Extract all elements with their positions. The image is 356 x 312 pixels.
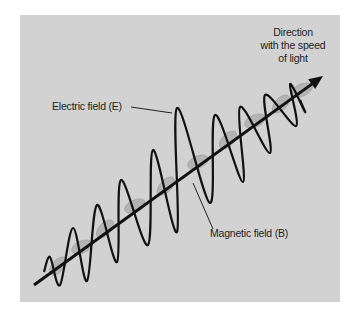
direction-line-2: with the speed bbox=[253, 39, 333, 52]
electric-field-label: Electric field (E) bbox=[52, 100, 122, 113]
electric-leader-line bbox=[131, 107, 172, 113]
direction-label: Direction with the speed of light bbox=[253, 26, 333, 65]
direction-line-1: Direction bbox=[253, 26, 333, 39]
direction-line-3: of light bbox=[253, 52, 333, 65]
magnetic-field-label: Magnetic field (B) bbox=[210, 227, 288, 240]
